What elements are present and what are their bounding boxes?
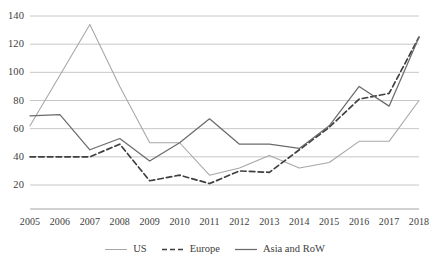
y-tick-label-40: 40 xyxy=(0,152,24,163)
legend-item-europe[interactable]: Europe xyxy=(161,244,220,255)
x-tick-label-2008: 2008 xyxy=(104,217,136,227)
x-tick-label-2011: 2011 xyxy=(194,217,226,227)
x-tick-label-2014: 2014 xyxy=(283,217,315,227)
legend-item-asia-and-row[interactable]: Asia and RoW xyxy=(234,244,325,255)
y-tick-label-20: 20 xyxy=(0,180,24,191)
chart-legend: USEuropeAsia and RoW xyxy=(0,239,429,259)
series-lines xyxy=(30,24,419,183)
x-tick-label-2006: 2006 xyxy=(44,217,76,227)
y-tick-label-100: 100 xyxy=(0,67,24,78)
series-line-asia-and-row xyxy=(30,37,419,161)
y-tick-label-120: 120 xyxy=(0,39,24,50)
series-line-us xyxy=(30,24,419,175)
x-tick-label-2015: 2015 xyxy=(313,217,345,227)
x-tick-label-2009: 2009 xyxy=(134,217,166,227)
legend-label: Asia and RoW xyxy=(263,244,325,255)
x-tick-label-2012: 2012 xyxy=(223,217,255,227)
legend-item-us[interactable]: US xyxy=(104,244,146,255)
x-tick-label-2010: 2010 xyxy=(164,217,196,227)
x-tick-label-2013: 2013 xyxy=(253,217,285,227)
gridlines xyxy=(30,16,419,185)
legend-swatch-icon xyxy=(234,245,258,254)
y-tick-label-80: 80 xyxy=(0,96,24,107)
legend-label: Europe xyxy=(190,244,220,255)
x-tick-label-2018: 2018 xyxy=(403,217,434,227)
legend-label: US xyxy=(133,244,146,255)
x-tick-label-2017: 2017 xyxy=(373,217,405,227)
legend-swatch-icon xyxy=(161,245,185,254)
y-tick-label-60: 60 xyxy=(0,124,24,135)
legend-swatch-icon xyxy=(104,245,128,254)
y-tick-label-140: 140 xyxy=(0,11,24,22)
series-line-europe xyxy=(30,37,419,183)
x-tick-label-2007: 2007 xyxy=(74,217,106,227)
x-tick-label-2016: 2016 xyxy=(343,217,375,227)
x-tick-label-2005: 2005 xyxy=(14,217,46,227)
